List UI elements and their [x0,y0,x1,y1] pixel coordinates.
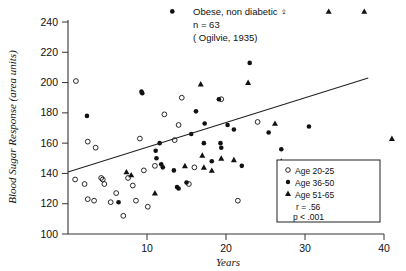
data-point-filled-circle [209,159,214,164]
data-point-filled-circle [219,145,224,150]
x-tick-label: 30 [299,242,311,254]
data-point-open-circle [162,112,167,117]
data-point-filled-triangle [128,172,134,177]
filled-circle-icon [286,180,290,184]
legend-label-age-36-50: Age 36-50 [295,178,334,188]
data-point-filled-circle [202,141,207,146]
data-point-filled-triangle [199,152,205,157]
data-point-filled-circle [232,127,237,132]
legend-label-age-20-25: Age 20-25 [295,166,334,176]
data-point-open-circle [192,165,197,170]
data-point-open-circle [73,177,78,182]
data-point-open-circle [92,198,97,203]
data-point-filled-triangle [272,120,278,125]
data-point-filled-circle [266,130,271,135]
data-point-open-circle [85,139,90,144]
data-point-filled-circle [172,168,177,173]
data-point-open-circle [74,79,79,84]
data-point-filled-circle [217,97,222,102]
y-tick-label: 100 [40,228,58,240]
data-point-filled-triangle [326,8,332,13]
data-point-open-circle [137,136,142,141]
data-point-filled-triangle [361,8,367,13]
data-point-open-circle [85,197,90,202]
y-tick-label: 240 [40,16,58,28]
data-point-filled-triangle [123,169,129,174]
regression-line [68,78,368,172]
data-point-open-circle [82,182,87,187]
scatter-plot-figure: 100120140160180200220240 10203040 Obese,… [0,0,406,271]
y-axis-ticks: 100120140160180200220240 [40,16,68,240]
data-point-open-circle [108,200,113,205]
data-point-filled-circle [279,147,284,152]
data-point-filled-circle [153,148,158,153]
data-point-filled-circle [202,121,207,126]
data-point-open-circle [145,204,150,209]
data-point-filled-circle [116,200,121,205]
data-point-filled-triangle [389,136,395,141]
data-point-open-circle [114,191,119,196]
data-point-open-circle [235,198,240,203]
data-point-filled-circle [140,91,145,96]
x-axis-ticks: 10203040 [141,234,390,254]
data-point-open-circle [102,182,107,187]
data-point-filled-triangle [245,80,251,85]
y-tick-label: 180 [40,106,58,118]
data-point-open-circle [179,95,184,100]
x-tick-label: 40 [378,242,390,254]
data-point-open-circle [255,120,260,125]
x-tick-label: 20 [220,242,232,254]
y-tick-label: 200 [40,76,58,88]
source-citation: ( Ogilvie, 1935) [193,32,257,43]
data-point-filled-circle [247,61,252,66]
data-point-filled-circle [218,141,223,146]
data-point-filled-triangle [182,163,188,168]
data-point-open-circle [153,163,158,168]
y-tick-label: 160 [40,137,58,149]
data-point-filled-circle [240,164,245,169]
sample-size-label: n = 63 [193,19,220,30]
y-tick-label: 120 [40,197,58,209]
data-point-filled-triangle [231,157,237,162]
correlation-value: r = .56 [296,202,321,212]
data-point-open-circle [130,183,135,188]
data-point-filled-circle [194,109,199,114]
data-point-filled-triangle [198,81,204,86]
data-point-open-circle [134,198,139,203]
p-value: p < .001 [293,212,324,222]
x-tick-label: 10 [141,242,153,254]
data-point-filled-circle [184,180,189,185]
legend: Age 20-25 Age 36-50 Age 51-65 r = .56 p … [277,160,380,222]
data-point-filled-triangle [218,155,224,160]
data-point-open-circle [176,123,181,128]
chart-canvas: 100120140160180200220240 10203040 Obese,… [0,0,406,271]
data-point-open-circle [141,168,146,173]
data-point-filled-circle [225,123,230,128]
data-point-filled-circle [176,186,181,191]
y-tick-label: 140 [40,167,58,179]
y-tick-label: 220 [40,46,58,58]
data-point-filled-circle [170,9,175,14]
data-point-filled-circle [307,124,312,129]
data-point-open-circle [93,145,98,150]
data-point-filled-circle [85,114,90,119]
x-axis-title: Years [216,256,240,268]
chart-title: Obese, non diabetic ♀ [193,6,287,17]
data-point-open-circle [121,213,126,218]
data-point-filled-circle [161,165,166,170]
data-point-filled-triangle [152,190,158,195]
data-point-filled-triangle [209,167,215,172]
legend-label-age-51-65: Age 51-65 [295,190,334,200]
data-point-filled-circle [154,156,159,161]
data-point-filled-triangle [201,164,207,169]
y-axis-title: Blood Sugar Response (area units) [6,50,19,204]
